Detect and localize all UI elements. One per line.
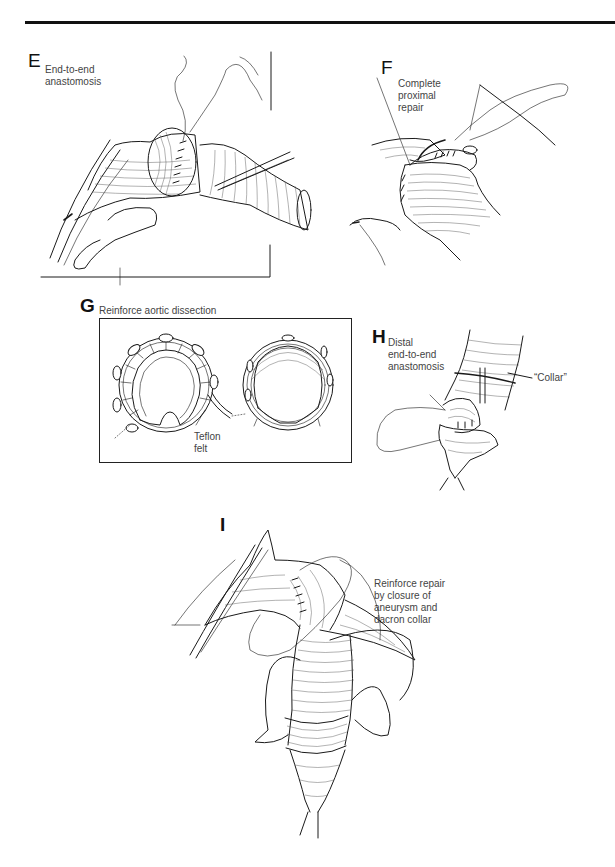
panel-h-caption: Distal end-to-end anastomosis <box>388 337 444 373</box>
panel-g-illustration <box>0 0 615 867</box>
panel-i-illustration <box>0 0 615 867</box>
panel-e-end-to-end-anastomosis: E End-to-end anastomosis <box>0 0 615 867</box>
panel-g-letter: G <box>80 296 95 315</box>
panel-f-letter: F <box>381 58 393 77</box>
panel-h-collar-label: “Collar” <box>534 372 567 384</box>
panel-e-caption: End-to-end anastomosis <box>45 64 101 88</box>
panel-g-reinforce-aortic-dissection: G Reinforce aortic dissection Teflon fel… <box>0 0 615 867</box>
panel-e-illustration <box>0 0 615 867</box>
panel-i-reinforce-repair: I Reinforce repair by closure of aneurys… <box>0 0 615 867</box>
panel-h-letter: H <box>372 327 386 346</box>
panel-g-teflon-felt-label: Teflon felt <box>194 431 221 455</box>
panel-g-frame <box>99 318 352 463</box>
panel-i-caption: Reinforce repair by closure of aneurysm … <box>374 578 445 626</box>
panel-h-illustration <box>0 0 615 867</box>
panel-i-letter: I <box>220 515 225 534</box>
top-rule-divider <box>25 21 615 24</box>
panel-e-letter: E <box>28 51 41 70</box>
panel-h-distal-end-to-end-anastomosis: H Distal end-to-end anastomosis “Collar” <box>0 0 615 867</box>
panel-f-illustration <box>0 0 615 867</box>
panel-f-complete-proximal-repair: F Complete proximal repair <box>0 0 615 867</box>
panel-f-caption: Complete proximal repair <box>398 78 441 114</box>
panel-g-caption: Reinforce aortic dissection <box>99 305 216 317</box>
